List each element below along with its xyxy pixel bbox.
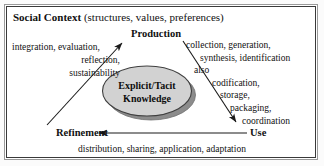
- knowledge-cycle-diagram: Social Context (structures, values, pref…: [0, 0, 324, 166]
- annotation-line: synthesis, identification: [200, 52, 290, 65]
- annotation-line: integration, evaluation,: [8, 41, 120, 54]
- social-context-header: Social Context (structures, values, pref…: [13, 12, 224, 24]
- knowledge-label-line1: Explicit/Tacit: [104, 79, 190, 92]
- node-label-refinement: Refinement: [56, 127, 108, 139]
- annotation-line: storage,: [220, 89, 290, 102]
- node-label-production: Production: [131, 28, 181, 40]
- annotation-line: coordination: [242, 115, 290, 128]
- annotation-production-to-use: collection, generation, synthesis, ident…: [186, 39, 290, 127]
- annotation-line: codification,: [212, 77, 290, 90]
- annotation-line: packaging,: [230, 102, 290, 115]
- annotation-line: collection, generation,: [186, 39, 290, 52]
- social-context-subtitle: (structures, values, preferences): [81, 11, 224, 23]
- knowledge-ellipse-label: Explicit/Tacit Knowledge: [104, 79, 190, 105]
- annotation-refinement-to-production: integration, evaluation, reflection, sus…: [8, 41, 120, 80]
- knowledge-label-line2: Knowledge: [104, 92, 190, 105]
- annotation-line: reflection,: [8, 54, 120, 67]
- node-label-use: Use: [250, 127, 266, 139]
- social-context-title: Social Context: [13, 11, 81, 23]
- annotation-use-to-refinement: distribution, sharing, application, adap…: [0, 144, 324, 156]
- annotation-line: also: [194, 64, 290, 77]
